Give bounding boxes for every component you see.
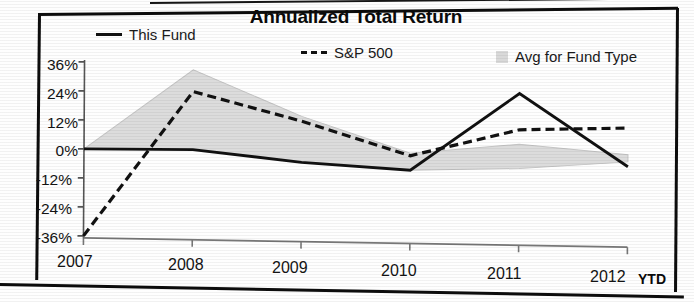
plot-area: [0, 0, 694, 302]
x-axis-line: [83, 238, 627, 247]
area-avg-for-fund-type: [84, 69, 629, 171]
chart-screenshot: Annualized Total Return This Fund S&P 50…: [0, 0, 694, 302]
